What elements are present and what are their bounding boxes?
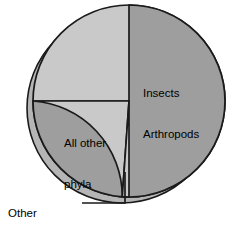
pie-label-insects-arthropods: Insects Arthropods xyxy=(143,60,199,168)
pie-label-all-other-phyla: All other phyla xyxy=(64,110,106,218)
pie-label-insects-line1: Insects xyxy=(143,87,199,101)
pie-label-other-arthropods: Other arthropods xyxy=(8,180,63,227)
pie-label-insects-line2: Arthropods xyxy=(143,128,199,142)
pie-chart-figure: Insects Arthropods All other phyla Other… xyxy=(0,0,237,227)
pie-label-all-other-phyla-line2: phyla xyxy=(64,178,106,192)
pie-label-all-other-phyla-line1: All other xyxy=(64,137,106,151)
pie-label-other-arthropods-line1: Other xyxy=(8,207,63,221)
